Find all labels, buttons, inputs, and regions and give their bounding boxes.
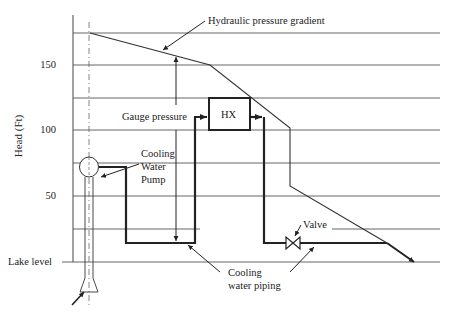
- valve-leader-arrow: [295, 225, 301, 236]
- hx-label: HX: [221, 108, 236, 121]
- tick-100: 100: [26, 124, 56, 135]
- discharge-arrow: [387, 243, 414, 262]
- y-axis-label: Head (Ft): [12, 106, 24, 166]
- piping-leader-arrow-2: [290, 247, 314, 272]
- gauge-pressure-label: Gauge pressure: [122, 110, 187, 123]
- piping-label-1: Cooling: [228, 266, 262, 279]
- lake-level-label: Lake level: [8, 255, 52, 268]
- inlet-flow-arrow: [72, 292, 84, 305]
- tick-150: 150: [26, 59, 56, 70]
- hydraulic-gradient-diagram: [0, 0, 453, 322]
- grid-lines: [62, 33, 440, 262]
- hydraulic-gradient-line: [90, 33, 387, 243]
- tick-50: 50: [26, 190, 56, 201]
- piping-label-2: water piping: [228, 279, 281, 292]
- valve-icon: [286, 237, 300, 249]
- hgl-label: Hydraulic pressure gradient: [208, 14, 325, 27]
- hgl-leader-arrow: [163, 21, 205, 50]
- pump-label-2: Water: [141, 160, 166, 173]
- valve-label: Valve: [303, 218, 327, 231]
- piping-leader-arrow: [188, 245, 220, 272]
- pump-label-3: Pump: [141, 173, 166, 186]
- pump-label-1: Cooling: [141, 147, 175, 160]
